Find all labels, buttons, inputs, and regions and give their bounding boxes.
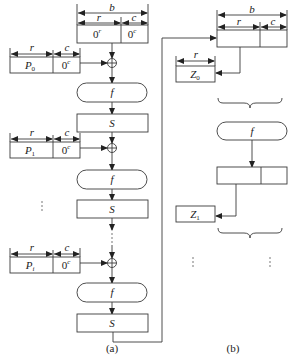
sponge-construction-diagram: b r c 0r 0c r c P0 0c [0, 0, 294, 360]
brace-1 [218, 98, 282, 108]
squeeze-state-box: b r c [217, 3, 287, 47]
svg-text:r: r [30, 241, 35, 253]
svg-text:c: c [65, 126, 70, 138]
c-label: c [132, 11, 137, 23]
svg-text:c: c [65, 241, 70, 253]
xor-icon [108, 259, 117, 268]
svg-text:c: c [65, 41, 70, 53]
caption-a: (a) [106, 342, 119, 355]
svg-text:r: r [237, 15, 242, 27]
svg-text:S: S [109, 117, 115, 129]
ellipsis-b-right [269, 257, 270, 266]
r-label: r [97, 11, 102, 23]
permutation-f-1: f [77, 83, 147, 102]
xor-icon [108, 144, 117, 153]
ellipsis-left [41, 201, 42, 210]
caption-b: (b) [227, 342, 240, 355]
state-s-final: S [77, 314, 148, 332]
ellipsis-vertical [111, 233, 112, 242]
svg-text:S: S [109, 317, 115, 329]
ellipsis-b-left [192, 257, 193, 266]
svg-text:c: c [271, 15, 276, 27]
squeeze-state-box-2 [217, 167, 287, 184]
permutation-f-squeeze: f [217, 122, 287, 140]
message-block-pi: r c Pi 0c [10, 241, 107, 273]
svg-text:r: r [30, 126, 35, 138]
message-block-p0: r c P0 0c [10, 41, 107, 73]
svg-text:r: r [194, 48, 199, 60]
state-s-2: S [77, 200, 148, 218]
svg-text:b: b [249, 3, 255, 15]
state-s-1: S [77, 114, 148, 132]
output-z0: r Z0 [176, 48, 215, 82]
output-z1: Z1 [176, 206, 215, 222]
svg-text:r: r [30, 41, 35, 53]
svg-text:S: S [109, 203, 115, 215]
xor-icon [108, 59, 117, 68]
permutation-f-3: f [77, 283, 147, 302]
b-label: b [109, 1, 115, 13]
panel-b: b r c r Z0 f Z1 [176, 3, 287, 355]
permutation-f-2: f [77, 170, 147, 189]
panel-a: b r c 0r 0c r c P0 0c [10, 1, 148, 355]
brace-2 [218, 228, 282, 238]
initial-state-box: b r c 0r 0c [77, 1, 148, 43]
